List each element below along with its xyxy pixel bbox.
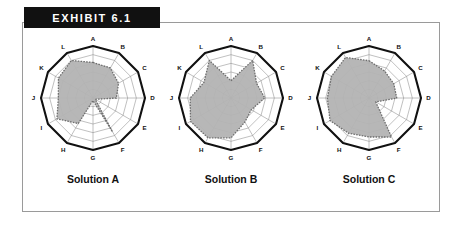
axis-label-g: G <box>367 154 372 161</box>
axis-label-g: G <box>91 154 96 161</box>
axis-label-a: A <box>229 35 234 42</box>
axis-label-a: A <box>367 35 372 42</box>
axis-label-j: J <box>308 94 312 101</box>
chart-caption-solution-c: Solution C <box>343 173 396 185</box>
axis-label-e: E <box>418 124 422 131</box>
axis-label-c: C <box>418 64 423 71</box>
axis-label-a: A <box>91 35 96 42</box>
axis-label-b: B <box>121 43 126 50</box>
axis-label-i: I <box>179 124 181 131</box>
axis-label-d: D <box>288 94 293 101</box>
chart-caption-solution-a: Solution A <box>67 173 119 185</box>
axis-label-j: J <box>32 94 36 101</box>
axis-label-h: H <box>61 146 66 153</box>
axis-label-e: E <box>280 124 284 131</box>
chart-caption-solution-b: Solution B <box>205 173 258 185</box>
axis-label-h: H <box>337 146 342 153</box>
axis-label-k: K <box>315 64 320 71</box>
axis-label-l: L <box>337 43 341 50</box>
axis-label-i: I <box>41 124 43 131</box>
chart-cell-solution-a: ABCDEFGHIJKL Solution A <box>25 32 161 185</box>
radar-chart-solution-a: ABCDEFGHIJKL <box>26 32 160 172</box>
radar-chart-solution-c: ABCDEFGHIJKL <box>302 32 436 172</box>
axis-label-g: G <box>229 154 234 161</box>
axis-label-k: K <box>177 64 182 71</box>
axis-label-e: E <box>142 124 146 131</box>
axis-label-d: D <box>426 94 431 101</box>
exhibit-banner-label: EXHIBIT 6.1 <box>52 12 131 24</box>
axis-label-d: D <box>150 94 155 101</box>
axis-label-b: B <box>259 43 264 50</box>
exhibit-banner: EXHIBIT 6.1 <box>24 7 160 28</box>
axis-label-b: B <box>397 43 402 50</box>
axis-label-f: F <box>259 146 263 153</box>
radar-chart-solution-b: ABCDEFGHIJKL <box>164 32 298 172</box>
chart-cell-solution-c: ABCDEFGHIJKL Solution C <box>301 32 437 185</box>
axis-label-h: H <box>199 146 204 153</box>
axis-label-l: L <box>199 43 203 50</box>
axis-label-f: F <box>397 146 401 153</box>
axis-label-c: C <box>142 64 147 71</box>
chart-cell-solution-b: ABCDEFGHIJKL Solution B <box>163 32 299 185</box>
exhibit-root: EXHIBIT 6.1 ABCDEFGHIJKL Solution A ABCD… <box>0 0 464 234</box>
axis-label-i: I <box>317 124 319 131</box>
radar-charts-row: ABCDEFGHIJKL Solution A ABCDEFGHIJKL Sol… <box>24 32 438 204</box>
axis-label-f: F <box>121 146 125 153</box>
axis-label-j: J <box>170 94 174 101</box>
axis-label-k: K <box>39 64 44 71</box>
axis-label-l: L <box>61 43 65 50</box>
axis-label-c: C <box>280 64 285 71</box>
